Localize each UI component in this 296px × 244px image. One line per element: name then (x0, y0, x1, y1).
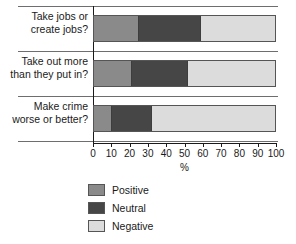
bar-segment-negative (201, 16, 275, 41)
bar-segment-positive (94, 106, 112, 131)
x-tick (166, 143, 167, 147)
legend-swatch-positive (88, 184, 105, 196)
legend-label-positive: Positive (112, 184, 149, 196)
chart-rule-bottom (18, 141, 278, 142)
x-axis-title: % (93, 162, 276, 173)
x-tick (93, 143, 94, 147)
bar-segment-negative (188, 61, 275, 86)
x-tick (203, 143, 204, 147)
x-tick (111, 143, 112, 147)
bar-row: Make crime worse or better? (0, 96, 296, 141)
legend-item-neutral: Neutral (88, 199, 153, 217)
legend-swatch-negative (88, 220, 105, 232)
bar-segment-neutral (132, 61, 188, 86)
stacked-bar-0 (93, 15, 276, 42)
x-tick (130, 143, 131, 147)
x-tick (221, 143, 222, 147)
legend-label-negative: Negative (112, 220, 153, 232)
category-label-2: Make crime worse or better? (0, 100, 88, 126)
x-tick (276, 143, 277, 147)
bar-segment-neutral (139, 16, 201, 41)
legend-swatch-neutral (88, 202, 105, 214)
stacked-bar-1 (93, 60, 276, 87)
bar-row: Take out more than they put in? (0, 51, 296, 96)
category-label-0: Take jobs or create jobs? (0, 10, 88, 36)
x-tick (258, 143, 259, 147)
x-tick (239, 143, 240, 147)
bar-segment-negative (152, 106, 275, 131)
bar-segment-positive (94, 61, 132, 86)
x-tick (148, 143, 149, 147)
bar-segment-neutral (112, 106, 152, 131)
legend-item-negative: Negative (88, 217, 153, 235)
stacked-bar-chart: Take jobs or create jobs? Take out more … (0, 0, 296, 244)
category-label-1: Take out more than they put in? (0, 55, 88, 81)
x-tick (185, 143, 186, 147)
legend-item-positive: Positive (88, 181, 153, 199)
bar-row: Take jobs or create jobs? (0, 6, 296, 51)
chart-legend: Positive Neutral Negative (88, 181, 153, 235)
x-tick-label: 100 (263, 148, 289, 160)
stacked-bar-2 (93, 105, 276, 132)
legend-label-neutral: Neutral (112, 202, 146, 214)
bar-segment-positive (94, 16, 139, 41)
